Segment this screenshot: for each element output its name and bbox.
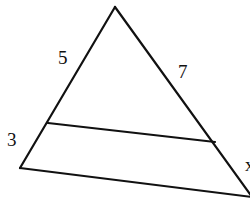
parallel-segment: [48, 123, 215, 142]
right-side: [115, 7, 250, 197]
triangle-diagram: 5 7 3 x: [0, 0, 250, 201]
label-right-upper: 7: [178, 61, 188, 82]
base: [20, 168, 250, 197]
left-side: [20, 7, 115, 168]
label-left-lower: 3: [7, 129, 17, 150]
label-left-upper: 5: [58, 47, 68, 68]
label-right-lower: x: [245, 154, 250, 175]
